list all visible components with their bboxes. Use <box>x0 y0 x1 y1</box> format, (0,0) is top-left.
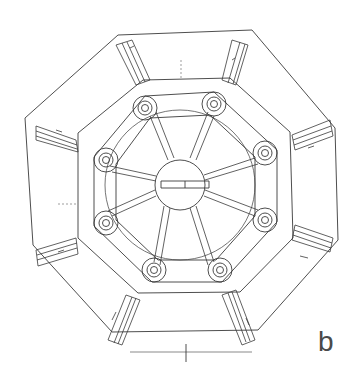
bolt-2 <box>202 92 226 116</box>
bolt-4 <box>253 208 277 232</box>
bolt-7 <box>94 211 118 235</box>
clamp-block-left-upper <box>36 126 78 152</box>
panel-label: b <box>318 328 334 356</box>
bolt-5 <box>208 258 232 282</box>
bolts <box>94 92 277 282</box>
clamp-block-right-upper <box>292 120 333 150</box>
clamp-block-bottom-right <box>222 290 255 345</box>
central-hub <box>155 160 205 210</box>
clamp-block-top-left <box>116 40 150 85</box>
bolt-1 <box>133 96 157 120</box>
clamp-blocks <box>36 40 333 345</box>
inner-race-circle <box>105 110 255 260</box>
bolt-3 <box>253 141 277 165</box>
bolt-ring-outer <box>94 92 277 282</box>
bolt-ring-inner <box>116 115 255 260</box>
clamp-block-left-lower <box>36 238 78 266</box>
bolt-8 <box>94 148 118 172</box>
technical-drawing <box>0 0 359 385</box>
clamp-block-bottom-left <box>108 295 140 345</box>
